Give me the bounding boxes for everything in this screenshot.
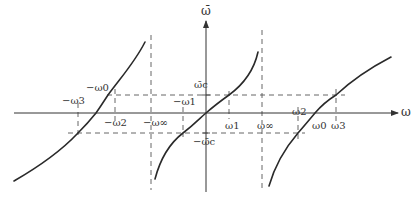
omega2-label: ω2 (292, 107, 307, 117)
neg-omega0-label: −ω0 (86, 83, 109, 93)
left-branch-curve (14, 42, 145, 181)
omega-axis-label: ω (401, 106, 411, 118)
neg-omega-inf-label: −ω∞ (143, 118, 168, 128)
omega-c-bar-label: ω̄c (194, 80, 208, 90)
omega3-label: ω3 (331, 121, 346, 131)
neg-omega1-label: −ω1 (173, 97, 196, 107)
omega-bar-axis-label: ω̄ (201, 5, 211, 17)
neg-omega-c-bar-label: −ω̄c (193, 137, 215, 147)
omega1-label: ω1 (225, 121, 240, 131)
neg-omega3-label: −ω3 (62, 96, 85, 106)
omega-inf-label: ω∞ (257, 121, 273, 131)
omega0-label: ω0 (312, 121, 327, 131)
right-branch-curve (269, 57, 391, 186)
neg-omega2-label: −ω2 (104, 118, 127, 128)
